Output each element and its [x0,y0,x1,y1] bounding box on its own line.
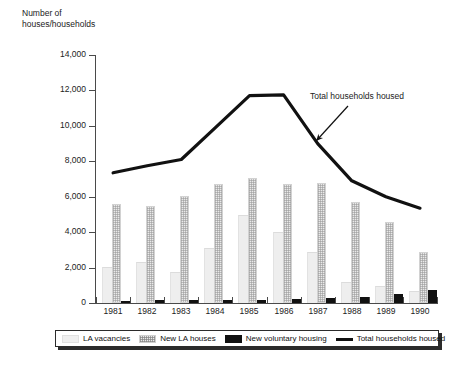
y-tick-label: 2,000 [40,262,86,272]
y-tick-label: 14,000 [40,49,86,59]
y-tick-mark [89,268,96,269]
bar-new-voluntary-housing-1990 [428,290,437,303]
chart-legend: LA vacanciesNew LA housesNew voluntary h… [55,330,439,347]
bar-new-voluntary-housing-1987 [326,298,335,303]
y-axis-title: Number of houses/households [22,8,95,30]
light-gray-bar-icon [62,335,79,343]
legend-item-total-households-housed[interactable]: Total households housed [336,334,446,343]
bar-new-la-houses-1986 [283,184,292,303]
bar-new-la-houses-1989 [385,222,394,303]
bar-new-la-houses-1983 [180,196,189,303]
x-tick-label-1986: 1986 [267,306,301,316]
y-tick-label: 8,000 [40,155,86,165]
bar-new-la-houses-1987 [317,183,326,303]
total-households-housed-polyline [113,95,420,208]
black-bar-icon [225,335,242,343]
bar-new-voluntary-housing-1981 [121,301,130,303]
bar-new-voluntary-housing-1988 [360,297,369,303]
bar-new-voluntary-housing-1983 [189,300,198,303]
y-tick-mark [89,126,96,127]
legend-label: New LA houses [160,334,216,343]
bar-new-la-houses-1982 [146,206,155,303]
x-tick-mark [437,297,438,304]
bar-new-la-houses-1984 [214,184,223,303]
legend-label: LA vacancies [83,334,130,343]
bar-new-voluntary-housing-1986 [292,299,301,303]
bar-new-la-houses-1988 [351,202,360,303]
y-tick-mark [89,161,96,162]
legend-label: Total households housed [357,334,446,343]
bar-new-voluntary-housing-1984 [223,300,232,303]
x-tick-label-1984: 1984 [198,306,232,316]
bar-new-la-houses-1981 [112,204,121,303]
y-tick-mark [89,90,96,91]
annotation-arrow-icon [300,100,360,150]
y-tick-mark [89,232,96,233]
legend-label: New voluntary housing [246,334,327,343]
y-tick-label: 10,000 [40,120,86,130]
y-tick-label: 0 [40,297,86,307]
x-tick-label-1987: 1987 [301,306,335,316]
hatched-bar-icon [139,335,156,343]
x-tick-label-1982: 1982 [130,306,164,316]
y-tick-label: 12,000 [40,84,86,94]
bar-new-voluntary-housing-1982 [155,300,164,303]
bar-new-la-houses-1985 [248,178,257,303]
x-tick-label-1990: 1990 [403,306,437,316]
x-tick-label-1983: 1983 [164,306,198,316]
y-tick-label: 6,000 [40,191,86,201]
x-tick-label-1985: 1985 [232,306,266,316]
bar-new-voluntary-housing-1985 [257,300,266,303]
y-tick-mark [89,55,96,56]
chart-container: Number of houses/households 02,0004,0006… [0,0,454,366]
y-tick-mark [89,197,96,198]
legend-item-new-voluntary-housing[interactable]: New voluntary housing [225,334,327,343]
bar-new-la-houses-1990 [419,252,428,303]
legend-item-la-vacancies[interactable]: LA vacancies [62,334,130,343]
black-line-icon [336,335,353,343]
legend-item-new-la-houses[interactable]: New LA houses [139,334,216,343]
x-tick-label-1981: 1981 [96,306,130,316]
y-tick-label: 4,000 [40,226,86,236]
bar-new-voluntary-housing-1989 [394,294,403,303]
x-tick-label-1988: 1988 [335,306,369,316]
x-tick-label-1989: 1989 [369,306,403,316]
y-tick-mark [89,303,96,304]
x-axis-line [95,303,437,304]
